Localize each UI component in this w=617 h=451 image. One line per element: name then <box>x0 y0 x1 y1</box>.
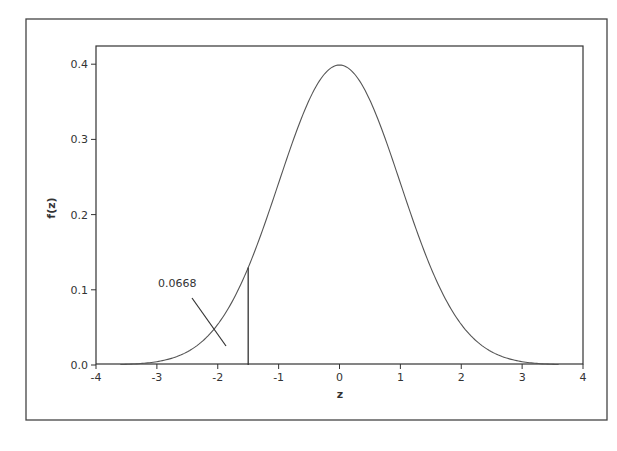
x-tick-label: 4 <box>580 371 587 384</box>
y-tick-label: 0.4 <box>71 58 89 71</box>
y-tick-label: 0.0 <box>71 359 89 372</box>
x-tick-label: 1 <box>397 371 404 384</box>
x-tick-label: -3 <box>151 371 162 384</box>
y-tick-label: 0.3 <box>71 133 89 146</box>
x-tick-label: 2 <box>458 371 465 384</box>
y-tick-label: 0.1 <box>71 284 89 297</box>
x-tick-label: -1 <box>273 371 284 384</box>
x-tick-label: 3 <box>519 371 526 384</box>
tail-area-label: 0.0668 <box>158 277 197 290</box>
y-axis-title: f(z) <box>45 197 58 218</box>
normal-distribution-chart: 0.00.10.20.30.4 -4-3-2-101234 0.0668 z f… <box>0 0 617 451</box>
y-tick-label: 0.2 <box>71 209 89 222</box>
x-tick-label: -2 <box>212 371 223 384</box>
x-axis-title: z <box>337 388 343 401</box>
x-tick-label: 0 <box>336 371 343 384</box>
x-tick-label: -4 <box>91 371 102 384</box>
